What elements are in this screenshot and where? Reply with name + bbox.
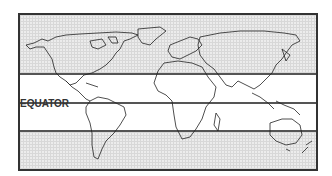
world-coastlines	[20, 15, 316, 169]
south-america-outline	[86, 97, 126, 159]
africa-outline	[154, 61, 216, 139]
australia-outline	[270, 119, 302, 145]
equator-label: EQUATOR	[20, 99, 69, 109]
europe-outline	[168, 37, 202, 59]
greenland-outline	[138, 27, 166, 45]
asia-outline	[198, 31, 300, 89]
north-america-outline	[26, 32, 138, 85]
new-zealand-outline	[302, 141, 312, 153]
world-map-frame: EQUATOR	[18, 13, 318, 171]
